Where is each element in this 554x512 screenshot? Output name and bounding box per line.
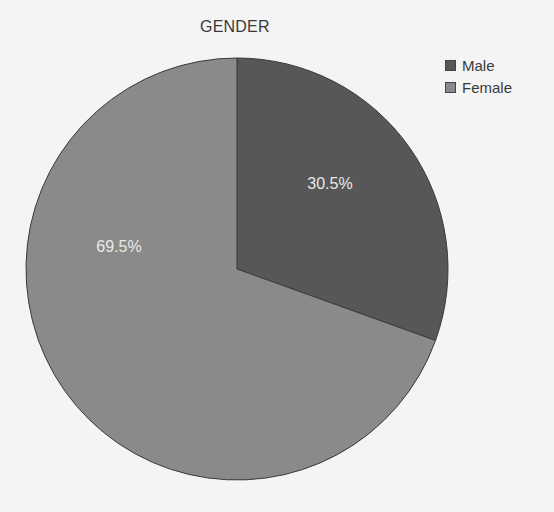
legend-swatch-female [445,82,456,93]
legend-label-female: Female [462,79,512,96]
legend-item-female: Female [445,76,512,98]
legend-item-male: Male [445,54,512,76]
slice-label-male: 30.5% [307,175,352,192]
legend: Male Female [445,54,512,98]
slice-label-female: 69.5% [96,238,141,255]
legend-label-male: Male [462,57,495,74]
legend-swatch-male [445,60,456,71]
